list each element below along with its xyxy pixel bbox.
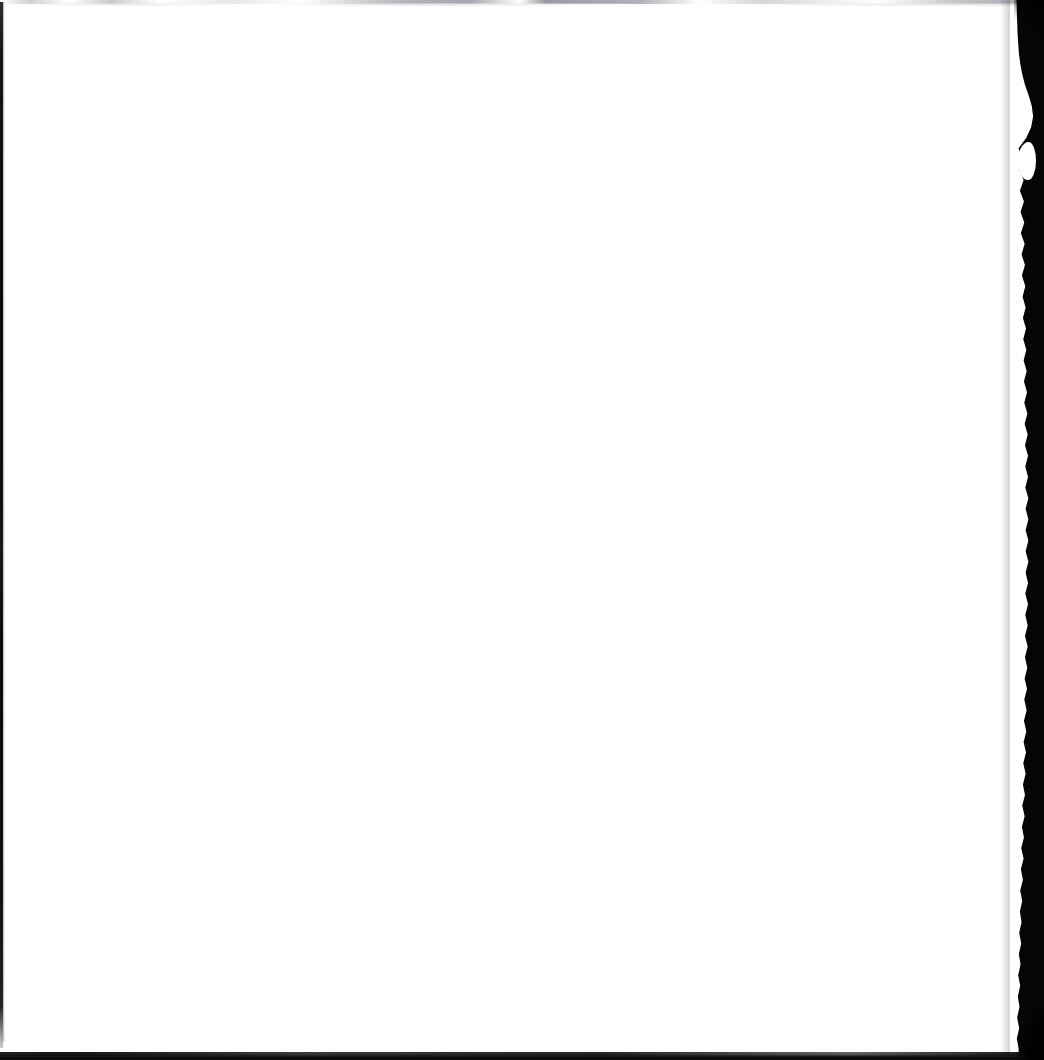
top-edge-smudge-secondary bbox=[0, 3, 1044, 6]
bottom-right-corner-shadow bbox=[1018, 1000, 1044, 1060]
scanned-page bbox=[0, 0, 1044, 1060]
right-edge-notch bbox=[1018, 142, 1036, 180]
top-right-corner-shadow bbox=[1014, 0, 1044, 40]
page-paper-surface bbox=[0, 0, 1044, 1060]
left-edge-feather bbox=[3, 2, 5, 1042]
bottom-edge-taper bbox=[0, 1052, 1044, 1056]
